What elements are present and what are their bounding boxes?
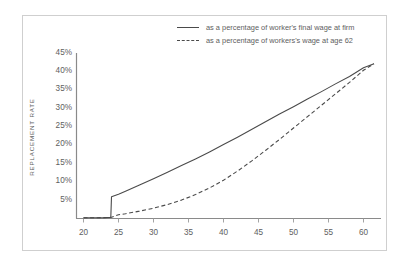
series-line-1 bbox=[84, 64, 375, 218]
data-series-group bbox=[84, 64, 375, 218]
y-tick-label: 10% bbox=[56, 176, 72, 185]
legend-item-label: as a percentage of worker's final wage a… bbox=[206, 23, 354, 32]
legend-solid-line-icon bbox=[176, 24, 200, 32]
y-tick-label: 5% bbox=[60, 195, 72, 204]
y-tick-label: 20% bbox=[56, 139, 72, 148]
x-tick-label: 50 bbox=[284, 228, 304, 237]
legend-dashed-line-icon bbox=[176, 37, 200, 45]
x-tick-label: 55 bbox=[319, 228, 339, 237]
legend-item-solid[interactable]: as a percentage of worker's final wage a… bbox=[176, 22, 386, 33]
x-tick-label: 60 bbox=[354, 228, 374, 237]
y-tick-label: 30% bbox=[56, 103, 72, 112]
y-tick-label: 45% bbox=[56, 48, 72, 57]
y-tick-label: 40% bbox=[56, 66, 72, 75]
axis-lines bbox=[76, 53, 381, 219]
x-tick-label: 35 bbox=[179, 228, 199, 237]
x-axis-tick-labels: 202530354045505560 bbox=[0, 228, 407, 242]
y-axis-title: REPLACEMENT RATE bbox=[23, 92, 39, 182]
y-tick-label: 35% bbox=[56, 84, 72, 93]
x-tick-label: 30 bbox=[144, 228, 164, 237]
y-tick-label: 25% bbox=[56, 121, 72, 130]
legend-item-label: as a percentage of workers's wage at age… bbox=[206, 36, 353, 45]
x-tick-label: 45 bbox=[249, 228, 269, 237]
x-tick-label: 25 bbox=[109, 228, 129, 237]
legend-item-dashed[interactable]: as a percentage of workers's wage at age… bbox=[176, 35, 386, 46]
x-axis-tick-marks bbox=[84, 219, 364, 223]
chart-legend: as a percentage of worker's final wage a… bbox=[176, 22, 386, 48]
y-axis-title-text: REPLACEMENT RATE bbox=[28, 98, 35, 176]
y-tick-label: 15% bbox=[56, 158, 72, 167]
x-tick-label: 40 bbox=[214, 228, 234, 237]
chart-figure: 5%10%15%20%25%30%35%40%45% 2025303540455… bbox=[0, 0, 407, 268]
x-tick-label: 20 bbox=[74, 228, 94, 237]
